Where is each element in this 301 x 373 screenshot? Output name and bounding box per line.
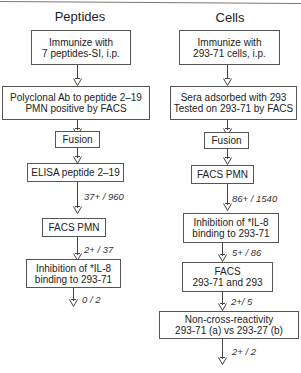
arrow-down-icon	[73, 182, 82, 214]
step-immunize-cells: Immunize with 293-71 cells, i.p.	[179, 30, 280, 65]
arrow-down-icon	[73, 237, 82, 261]
step-line: binding to 293-71	[35, 274, 112, 285]
arrow-down-icon	[73, 148, 82, 164]
step-line: 7 peptides-SI, i.p.	[42, 48, 120, 59]
top-border-line	[0, 1, 301, 4]
arrow-label: 2+ / 37	[84, 244, 113, 255]
step-polyclonal-ab: Polyclonal Ab to peptide 2–19 PMN positi…	[2, 86, 150, 120]
step-facs-293: FACS 293-71 and 293	[182, 262, 273, 292]
arrow-label: 0 / 2	[82, 294, 101, 305]
step-line: Fusion	[211, 135, 241, 146]
step-elisa: ELISA peptide 2–19	[27, 163, 124, 182]
step-line: 293-71 cells, i.p.	[193, 48, 266, 59]
step-line: Polyclonal Ab to peptide 2–19	[10, 92, 142, 103]
step-line: Non-cross-reactivity	[185, 314, 273, 325]
column-title-peptides: Peptides	[40, 9, 120, 24]
step-sera-adsorbed: Sera adsorbed with 293 Tested on 293-71 …	[170, 86, 297, 120]
arrow-down-icon	[223, 184, 232, 211]
step-facs-pmn-peptides: FACS PMN	[42, 218, 106, 237]
step-fusion-peptides: Fusion	[55, 131, 100, 148]
step-inhibition-cells: Inhibition of *IL-8 binding to 293-71	[183, 213, 279, 243]
step-line: PMN positive by FACS	[25, 103, 126, 114]
step-fusion-cells: Fusion	[204, 132, 249, 149]
arrow-label: 2+ / 2	[232, 346, 256, 357]
column-title-cells: Cells	[200, 10, 260, 25]
step-line: Sera adsorbed with 293	[181, 92, 287, 103]
arrow-label: 5+ / 86	[232, 247, 261, 258]
step-line: ELISA peptide 2–19	[31, 167, 119, 178]
step-line: Immunize with	[49, 37, 113, 48]
arrow-down-icon	[223, 149, 232, 165]
step-inhibition-peptides: Inhibition of *IL-8 binding to 293-71	[26, 259, 121, 288]
step-line: FACS PMN	[197, 169, 248, 180]
step-line: 293-71 (a) vs 293-27 (b)	[175, 325, 283, 336]
step-facs-pmn-cells: FACS PMN	[191, 165, 254, 184]
arrow-down-icon	[223, 65, 232, 86]
arrow-down-icon	[69, 288, 78, 307]
arrow-label: 2+/ 5	[231, 296, 252, 307]
step-non-cross-reactivity: Non-cross-reactivity 293-71 (a) vs 293-2…	[159, 311, 299, 339]
arrow-label: 37+ / 960	[84, 191, 124, 202]
arrow-label: 86+ / 1540	[232, 193, 277, 204]
step-line: 293-71 and 293	[192, 277, 262, 288]
step-line: Inhibition of *IL-8	[193, 217, 268, 228]
step-immunize-peptides: Immunize with 7 peptides-SI, i.p.	[31, 30, 131, 65]
step-line: Inhibition of *IL-8	[36, 263, 111, 274]
step-line: FACS	[214, 266, 240, 277]
arrow-down-icon	[73, 65, 82, 86]
step-line: Immunize with	[198, 37, 262, 48]
arrow-down-icon	[218, 292, 227, 311]
arrow-down-icon	[218, 243, 227, 262]
step-line: FACS PMN	[48, 222, 99, 233]
step-line: Tested on 293-71 by FACS	[174, 103, 294, 114]
step-line: binding to 293-71	[192, 228, 269, 239]
arrow-down-icon	[218, 339, 227, 365]
step-line: Fusion	[62, 134, 92, 145]
